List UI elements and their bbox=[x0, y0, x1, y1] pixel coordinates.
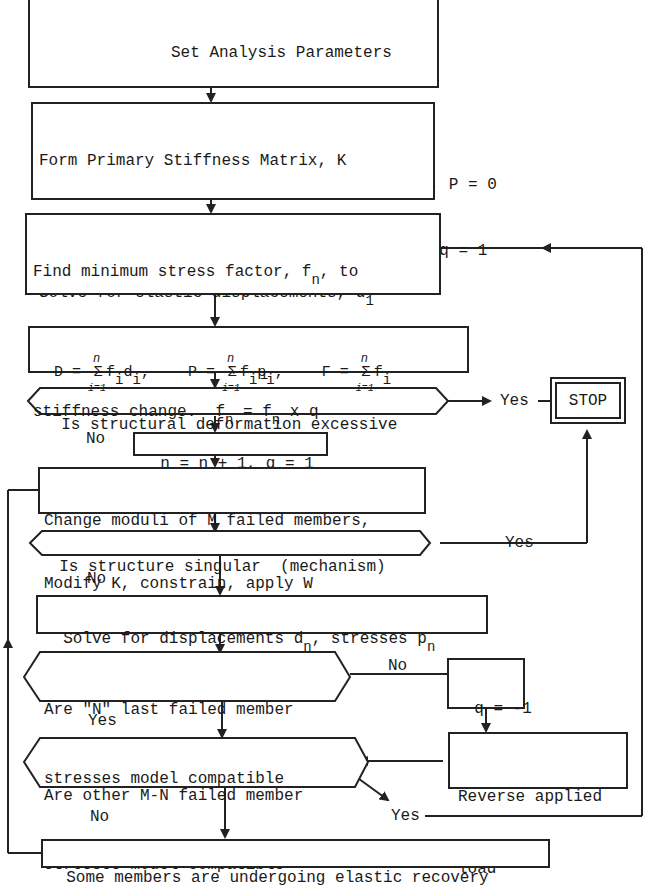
other-failed-yes-label: Yes bbox=[391, 807, 420, 825]
singular-yes-label: Yes bbox=[505, 534, 534, 552]
find-min-line1: Find minimum stress factor, fn, to bbox=[33, 261, 433, 291]
last-failed-yes-label: Yes bbox=[88, 712, 117, 730]
sum-d: D = nΣi=1fidi, bbox=[54, 364, 150, 381]
sum-p-lhs: P = bbox=[188, 364, 224, 381]
reverse-load-line1: Reverse applied bbox=[458, 785, 618, 809]
find-min-line1-text: Find minimum stress factor, f bbox=[33, 263, 311, 281]
deformation-yes-label: Yes bbox=[500, 392, 529, 410]
q-reverse-box: q = -1 bbox=[447, 658, 525, 709]
sum-f: F = nΣi=1fi bbox=[322, 364, 391, 381]
sum-f-lhs: F = bbox=[322, 364, 358, 381]
sum-d-lhs: D = bbox=[54, 364, 90, 381]
sigma-icon: nΣi=1 bbox=[358, 361, 374, 385]
find-min-line1-tail: , to bbox=[320, 263, 358, 281]
singular-no-label: No bbox=[87, 570, 106, 588]
q-reverse-text: q = -1 bbox=[474, 700, 532, 718]
last-failed-no-label: No bbox=[388, 657, 407, 675]
sigma-icon: nΣi=1 bbox=[90, 361, 106, 385]
sum-f-f: f bbox=[374, 364, 383, 381]
sum-f-upper: n bbox=[361, 347, 368, 371]
last-failed-line1: Are "N" last failed member bbox=[44, 699, 294, 722]
stop-text: STOP bbox=[569, 392, 607, 410]
sigma-icon: nΣi=1 bbox=[224, 361, 240, 385]
sum-f-sub: i bbox=[383, 372, 391, 388]
stop-terminal: STOP bbox=[550, 377, 626, 424]
sum-p-f: f bbox=[240, 364, 249, 381]
form-stiffness-matrix-box: Form Primary Stiffness Matrix, K Constra… bbox=[31, 102, 435, 200]
sum-p-sub2: i bbox=[266, 372, 274, 388]
solve-sub1: n bbox=[303, 639, 311, 655]
increment-box: n = n + 1, q = 1 bbox=[133, 432, 328, 456]
sum-p-comma: , bbox=[275, 364, 284, 381]
form-stiffness-line1: Form Primary Stiffness Matrix, K bbox=[39, 150, 427, 172]
other-failed-no-label: No bbox=[90, 808, 109, 826]
stop-terminal-inner: STOP bbox=[555, 382, 621, 419]
sum-p-upper: n bbox=[227, 347, 234, 371]
solve-text-b: , stresses p bbox=[312, 630, 427, 648]
elastic-recovery-text: Some members are undergoing elastic reco… bbox=[66, 869, 488, 887]
sum-p-p: p bbox=[257, 364, 266, 381]
solve-text-a: Solve for displacements d bbox=[63, 630, 303, 648]
sum-p: P = nΣi=1fipi, bbox=[188, 364, 284, 381]
singular-decision-text: Is structure singular (mechanism) bbox=[59, 558, 385, 576]
change-moduli-line1: Change moduli of M failed members, bbox=[44, 511, 420, 532]
other-failed-line1: Are other M-N failed member bbox=[44, 785, 303, 808]
sum-d-sub2: i bbox=[132, 372, 140, 388]
find-min-stress-factor-box: Find minimum stress factor, fn, to cause… bbox=[25, 213, 441, 295]
reverse-load-box: Reverse applied load bbox=[448, 732, 628, 789]
set-analysis-parameters-box: Set Analysis Parameters No. of analysis … bbox=[28, 0, 439, 88]
sum-d-f: f bbox=[106, 364, 115, 381]
solve-displacements-box: Solve for displacements dn, stresses pn bbox=[36, 595, 488, 634]
elastic-recovery-box: Some members are undergoing elastic reco… bbox=[41, 839, 550, 868]
sum-d-comma: , bbox=[141, 364, 150, 381]
sum-d-upper: n bbox=[93, 347, 100, 371]
change-moduli-box: Change moduli of M failed members, Modif… bbox=[38, 467, 426, 514]
set-params-title: Set Analysis Parameters bbox=[36, 42, 431, 64]
deformation-no-label: No bbox=[86, 430, 105, 448]
solve-sub2: n bbox=[427, 639, 435, 655]
summation-box: D = nΣi=1fidi,P = nΣi=1fipi,F = nΣi=1fi bbox=[28, 326, 469, 373]
find-min-line1-subscript: n bbox=[311, 272, 319, 288]
